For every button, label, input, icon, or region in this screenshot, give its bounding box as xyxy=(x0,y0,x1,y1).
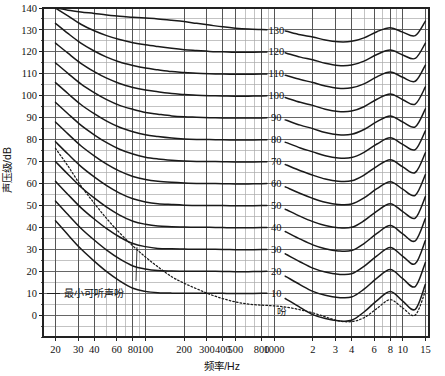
x-tick-label: 60 xyxy=(112,344,123,355)
phon-label: 70 xyxy=(271,156,282,167)
x-tick-label: 8 xyxy=(388,344,393,355)
min-audible-field-annotation: 最小可听声吩 xyxy=(64,287,124,299)
x-tick-label: 6 xyxy=(372,344,377,355)
y-tick-label: 70 xyxy=(27,156,38,167)
x-tick-label: 1000 xyxy=(264,344,285,355)
phon-label: 100 xyxy=(268,90,284,101)
x-tick-label: 200 xyxy=(176,344,192,355)
phon-label: 90 xyxy=(271,112,282,123)
y-tick-label: 130 xyxy=(21,25,37,36)
equal-loudness-contour-chart: 130120110100908070605040302010 010203040… xyxy=(0,0,445,376)
x-tick-label: 10 xyxy=(397,344,408,355)
y-axis-title: 声压级/dB xyxy=(1,147,13,193)
y-tick-label: 20 xyxy=(27,266,38,277)
x-tick-label: 30 xyxy=(73,344,84,355)
x-tick-label: 2 xyxy=(310,344,315,355)
x-tick-label: 300 xyxy=(199,344,215,355)
phon-label: 30 xyxy=(271,244,282,255)
y-tick-label: 50 xyxy=(27,200,38,211)
y-tick-label: 40 xyxy=(27,222,38,233)
phon-label: 80 xyxy=(271,134,282,145)
y-tick-label: 10 xyxy=(27,288,38,299)
x-tick-label: 500 xyxy=(227,344,243,355)
phon-label: 40 xyxy=(271,222,282,233)
y-tick-label: 80 xyxy=(27,134,38,145)
y-tick-label: 100 xyxy=(21,90,37,101)
x-tick-label: 15 xyxy=(420,344,431,355)
y-tick-label: 30 xyxy=(27,244,38,255)
x-tick-label: 100 xyxy=(138,344,154,355)
x-axis-title: 频率/Hz xyxy=(204,360,240,372)
phon-unit-annotation: 吩 xyxy=(277,306,287,317)
phon-label: 20 xyxy=(271,266,282,277)
phon-label: 130 xyxy=(268,25,284,36)
y-tick-label: 0 xyxy=(32,310,37,321)
x-tick-label: 4 xyxy=(349,344,355,355)
phon-label: 10 xyxy=(271,288,282,299)
phon-label: 120 xyxy=(268,46,284,57)
y-tick-label: 110 xyxy=(22,68,37,79)
x-tick-label: 40 xyxy=(89,344,100,355)
y-tick-label: 90 xyxy=(27,112,38,123)
phon-label: 50 xyxy=(271,200,282,211)
chart-canvas: 130120110100908070605040302010 010203040… xyxy=(0,0,445,376)
phon-label: 60 xyxy=(271,178,282,189)
phon-label: 110 xyxy=(269,68,284,79)
x-tick-label: 20 xyxy=(50,344,61,355)
y-tick-label: 60 xyxy=(27,178,38,189)
y-tick-label: 140 xyxy=(21,3,37,14)
y-tick-label: 120 xyxy=(21,46,37,57)
x-tick-label: 3 xyxy=(333,344,338,355)
